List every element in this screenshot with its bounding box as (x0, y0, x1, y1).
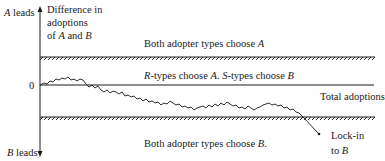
lock-in-point (318, 133, 321, 136)
lock-in-annotation: Lock-in to B (331, 128, 364, 158)
lock-in-line2: to B (331, 143, 364, 158)
region-top-label: Both adopter types choose A (144, 38, 264, 50)
arrow-up-icon (38, 6, 43, 12)
region-bottom-label: Both adopter types choose B. (144, 138, 267, 150)
axis-title-line3: of A and B (47, 29, 102, 42)
leads-text: leads (13, 147, 37, 158)
vertical-axis (38, 6, 43, 157)
upper-absorbing-barrier (40, 57, 375, 60)
lower-absorbing-barrier (40, 117, 375, 120)
lock-in-line1: Lock-in (331, 128, 364, 143)
axis-title: Difference in adoptions of A and B (47, 3, 102, 42)
region-middle-label: R-types choose A. S-types choose B (144, 70, 294, 82)
random-walk-path (40, 77, 304, 118)
axis-title-line1: Difference in (47, 3, 102, 16)
zero-label: 0 (29, 80, 34, 92)
leads-text: leads (10, 7, 34, 18)
x-axis-label: Total adoptions (320, 91, 385, 103)
arrow-down-icon (38, 151, 43, 157)
axis-title-line2: adoptions (47, 16, 102, 29)
b-leads-label: B leads (7, 147, 38, 159)
a-leads-label: A leads (4, 7, 35, 19)
lock-in-arrow-line (304, 118, 318, 133)
